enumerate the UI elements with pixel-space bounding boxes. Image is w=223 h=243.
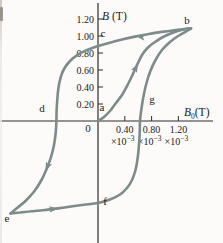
point-label-g: g xyxy=(149,93,155,105)
curve-direction-arrow xyxy=(131,62,141,73)
x-axis-unit: (T) xyxy=(195,106,210,119)
hysteresis-chart: 1.201.000.800.600.400.200.40×10−30.80×10… xyxy=(0,0,223,243)
page-edge-smudge xyxy=(0,7,3,21)
y-axis-title: B(T) xyxy=(102,10,127,23)
point-label-a: a xyxy=(100,101,105,113)
y-axis-unit: (T) xyxy=(112,10,127,23)
point-label-c: c xyxy=(101,27,106,39)
y-tick-label: 0.40 xyxy=(77,82,95,93)
page-edge-artifact xyxy=(0,0,2,243)
x-tick-multiplier: ×10−3 xyxy=(165,134,189,147)
point-label-d: d xyxy=(39,102,45,114)
x-tick-multiplier: ×10−3 xyxy=(111,134,135,147)
y-tick-label: 1.20 xyxy=(77,14,95,25)
y-tick-label: 0.20 xyxy=(77,99,95,110)
point-label-b: b xyxy=(184,14,190,26)
hysteresis-figure: 1.201.000.800.600.400.200.40×10−30.80×10… xyxy=(0,0,223,243)
point-label-f: f xyxy=(103,195,107,207)
origin-label: 0 xyxy=(85,122,91,134)
y-axis-symbol: B xyxy=(102,10,109,22)
y-tick-label: 0.60 xyxy=(77,65,95,76)
x-tick-multiplier: ×10−3 xyxy=(138,134,162,147)
x-axis-symbol: B xyxy=(184,106,191,118)
x-axis-title: B0(T) xyxy=(184,106,210,121)
point-label-e: e xyxy=(5,212,10,224)
y-tick-label: 1.00 xyxy=(77,31,95,42)
